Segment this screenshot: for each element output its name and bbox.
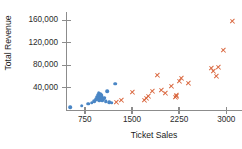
data-point <box>113 82 117 86</box>
data-point <box>106 89 110 93</box>
data-point <box>229 19 234 24</box>
x-tick-label: 3000 <box>217 116 235 124</box>
data-point <box>220 48 225 53</box>
x-tick-label: 2250 <box>170 116 188 124</box>
x-axis-title: Ticket Sales <box>66 130 242 140</box>
data-point <box>215 65 220 70</box>
scatter-chart: 40,00080,000120,000160,000 7501500225030… <box>0 0 242 149</box>
data-point <box>186 81 191 86</box>
data-point <box>178 76 183 81</box>
data-point <box>154 73 159 78</box>
data-point <box>146 94 151 99</box>
y-axis-title: Total Revenue <box>3 7 13 79</box>
data-point <box>168 83 173 88</box>
x-tick-label: 750 <box>78 116 92 124</box>
x-tick-label: 1500 <box>123 116 141 124</box>
data-point <box>69 105 73 109</box>
data-point <box>174 92 179 97</box>
data-point <box>80 104 84 108</box>
y-tick-label: 40,000 <box>0 84 58 92</box>
data-point <box>149 89 154 94</box>
data-point <box>214 74 219 79</box>
x-axis-line <box>66 110 242 111</box>
data-point <box>129 90 134 95</box>
plot-area <box>66 12 242 110</box>
data-point <box>163 90 168 95</box>
data-point <box>119 98 124 103</box>
